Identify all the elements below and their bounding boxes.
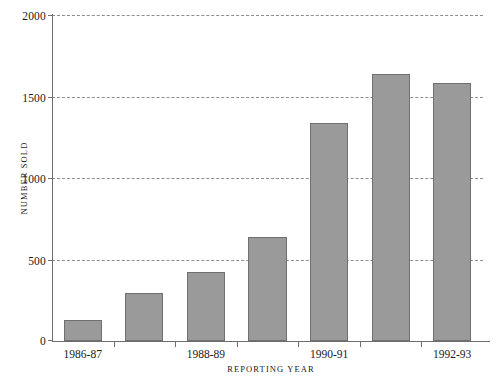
bar-chart-figure: 2000150010005000 REPORTING YEAR NUMBER S… <box>0 0 496 387</box>
bar <box>187 272 225 341</box>
x-axis-tick-mark <box>175 341 176 347</box>
y-axis-tick-mark <box>48 15 53 16</box>
bar <box>433 83 471 341</box>
x-axis-tick-mark <box>114 341 115 347</box>
x-axis-tick-label: 1992-93 <box>433 348 471 360</box>
x-axis-tick-mark <box>360 341 361 347</box>
plot-area: 2000150010005000 <box>52 15 483 341</box>
x-axis-line <box>52 341 490 342</box>
bar <box>248 237 286 341</box>
x-axis-title: REPORTING YEAR <box>52 364 490 374</box>
bar <box>125 293 163 341</box>
bar <box>372 74 410 341</box>
x-axis-tick-label: 1988-89 <box>187 348 225 360</box>
x-axis-tick-label: 1990-91 <box>310 348 348 360</box>
x-axis-tick-mark <box>298 341 299 347</box>
y-axis-tick-mark <box>48 340 53 341</box>
bar <box>310 123 348 341</box>
x-axis-tick-mark <box>237 341 238 347</box>
gridline: 2000 <box>52 15 483 16</box>
y-axis-tick-mark <box>48 260 53 261</box>
y-axis-tick-label: 0 <box>40 335 46 347</box>
x-axis-tick-mark <box>421 341 422 347</box>
y-axis-title: NUMBER SOLD <box>16 15 32 341</box>
y-axis-tick-mark <box>48 178 53 179</box>
gridline: 1000 <box>52 178 483 179</box>
x-axis-tick-label: 1986-87 <box>64 348 102 360</box>
bar <box>64 320 102 341</box>
gridline: 1500 <box>52 97 483 98</box>
y-axis-tick-mark <box>48 97 53 98</box>
